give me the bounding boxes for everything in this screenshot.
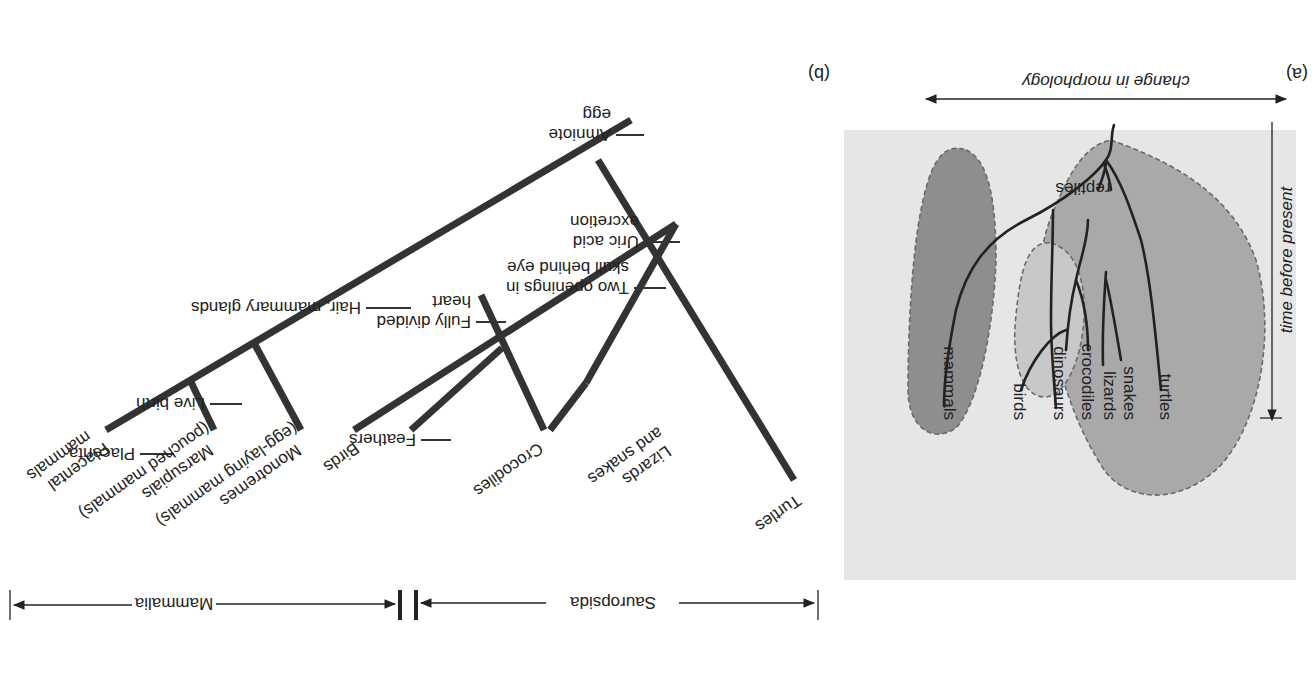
taxon-birds: Birds — [320, 439, 363, 477]
taxon-turtles: turtles — [1156, 374, 1175, 420]
taxon-birds: birds — [1010, 383, 1029, 420]
figure-rotated: (a) change in morphology time before pre… — [0, 0, 1316, 680]
time-axis-label: time before present — [1277, 185, 1296, 333]
panel-a: (a) change in morphology time before pre… — [844, 64, 1308, 580]
char-uric: Uric acid — [573, 232, 639, 251]
char-two-openings: Two openings in — [506, 278, 629, 297]
sauropsida-label: Sauropsida — [569, 593, 656, 612]
char-two-openings-2: skull behind eye — [507, 258, 629, 277]
group-bracket: Sauropsida Mammalia — [10, 590, 818, 620]
char-live-birth: Live birth — [136, 394, 205, 413]
reptiles-label: reptiles — [1056, 179, 1111, 198]
char-feathers: Feathers — [349, 430, 416, 449]
taxon-crocodiles: crocodiles — [1078, 343, 1097, 420]
taxon-dinosaurs: dinosaurs — [1050, 346, 1069, 420]
morphology-axis-label: change in morphology — [1021, 72, 1190, 91]
taxon-lizards: lizards — [1100, 371, 1119, 420]
char-amniote-2: egg — [583, 105, 611, 124]
taxon-mammals: mammals — [940, 346, 959, 420]
taxon-turtles: Turtles — [752, 491, 805, 536]
char-fully-divided: Fully divided — [377, 312, 472, 331]
char-amniote: Amniote — [549, 125, 611, 144]
taxon-snakes: snakes — [1120, 366, 1139, 420]
taxon-crocodiles: Crocodiles — [470, 439, 547, 501]
panel-a-label: (a) — [1286, 64, 1308, 84]
char-uric-2: excretion — [570, 212, 639, 231]
mammalia-label: Mammalia — [134, 594, 213, 613]
panel-b-label: (b) — [808, 64, 830, 84]
char-fully-divided-2: heart — [432, 292, 471, 311]
panel-b: (b) Amniote egg Uric — [10, 64, 830, 620]
char-hair: Hair, mammary glands — [191, 298, 361, 317]
